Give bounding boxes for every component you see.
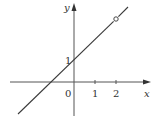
x-tick-label-2: 2	[113, 88, 119, 99]
y-axis-label: y	[63, 2, 70, 13]
function-line-continued	[118, 7, 128, 17]
x-tick-label-1: 1	[92, 88, 98, 99]
origin-label: 0	[65, 88, 71, 99]
open-circle-hole	[114, 17, 118, 21]
x-axis-arrow-icon	[143, 80, 151, 85]
y-tick-label-1: 1	[65, 55, 71, 66]
graph: y x 0 1 2 1	[0, 0, 161, 118]
function-line	[18, 21, 114, 114]
y-axis-arrow-icon	[72, 3, 77, 11]
x-axis-label: x	[144, 88, 150, 99]
